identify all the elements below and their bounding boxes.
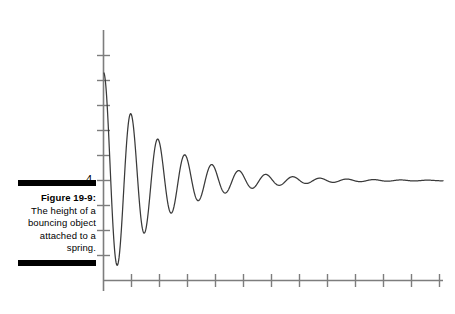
figure-caption-body: The height of a bouncing object attached… (18, 205, 96, 255)
figure-root: 4 Figure 19-9: The height of a bouncing … (0, 0, 455, 314)
chart-plot-area: 4 (0, 0, 455, 314)
damped-oscillation-curve (104, 73, 443, 265)
caption-rule-bottom (18, 260, 96, 266)
caption-text: Figure 19-9: The height of a bouncing ob… (18, 192, 96, 255)
chart-svg (0, 0, 455, 314)
figure-caption-block: Figure 19-9: The height of a bouncing ob… (18, 180, 96, 266)
figure-number-label: Figure 19-9: (18, 192, 96, 205)
caption-rule-top (18, 180, 96, 186)
